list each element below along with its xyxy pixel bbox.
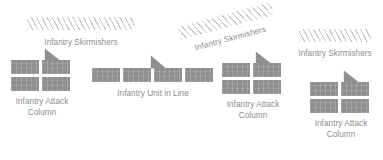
hatch-band-icon (27, 17, 135, 30)
unit-block (222, 63, 250, 77)
unit-block (154, 68, 182, 82)
unit-block (253, 80, 281, 94)
facing-marker-icon (150, 55, 167, 69)
formation-diagram: Infantry Skirmishers Infantry Skirmisher… (0, 0, 383, 160)
unit-infantry-unit-in-line-label: Infantry Unit in Line (92, 89, 214, 100)
unit-block (341, 82, 369, 96)
unit-infantry-attack-column-2-label: Infantry Attack Column (209, 100, 297, 121)
unit-block (92, 68, 120, 82)
unit-block (253, 63, 281, 77)
unit-block (11, 60, 39, 74)
unit-block (123, 68, 151, 82)
skirmisher-screen-right-label: Infantry Skirmishers (277, 49, 383, 60)
unit-block (11, 77, 39, 91)
skirmisher-screen-left-label: Infantry Skirmishers (23, 38, 139, 49)
unit-block (185, 68, 213, 82)
unit-infantry-attack-column-1 (11, 60, 73, 94)
unit-infantry-unit-in-line (92, 68, 214, 84)
hatch-band-icon (299, 29, 371, 42)
unit-block (222, 80, 250, 94)
unit-block (341, 99, 369, 113)
unit-infantry-attack-column-1-label: Infantry Attack Column (0, 97, 86, 118)
unit-infantry-attack-column-3-label: Infantry Attack Column (297, 119, 383, 140)
unit-block (42, 60, 70, 74)
unit-block (310, 82, 338, 96)
unit-block (310, 99, 338, 113)
unit-infantry-attack-column-2 (222, 63, 284, 97)
unit-infantry-attack-column-3 (310, 82, 372, 116)
unit-block (42, 77, 70, 91)
